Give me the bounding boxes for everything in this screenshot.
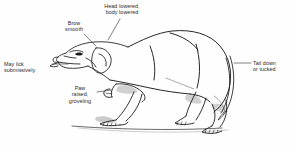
ground-line [72,126,228,132]
annotation-paw-raised-groveling: Pawraised,groveling [62,85,98,104]
annotation-tail-down-or-tucked: Tail downor tucked [253,60,293,73]
dog-body [110,31,231,112]
submissive-dog-diagram: Head lowered,body lowered Browsmooth May… [0,0,295,149]
annotation-may-lick-submissively: May licksubmissively [4,61,54,74]
dog-illustration [0,0,295,149]
leader-head-lowered [108,19,120,40]
annotation-head-lowered: Head lowered,body lowered [96,3,148,16]
body-shading [95,85,228,123]
dog-head [50,42,128,80]
dog-hind-legs [175,92,227,133]
annotation-brow-smooth: Browsmooth [54,20,94,33]
leader-brow-smooth [84,34,96,46]
